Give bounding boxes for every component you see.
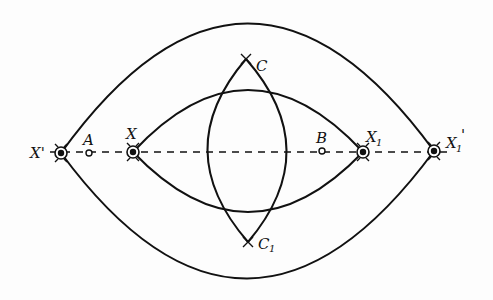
diagram-canvas: X' A X B X 1 X 1 ' C C 1 — [0, 0, 493, 300]
label-c1: C 1 — [258, 235, 275, 254]
label-a: A — [81, 131, 94, 149]
svg-text:': ' — [461, 126, 465, 144]
label-x: X — [125, 125, 138, 143]
label-x-prime: X' — [29, 144, 45, 162]
point-marker-b — [319, 148, 325, 154]
point-marker-c1 — [243, 237, 253, 247]
label-x1: X 1 — [365, 128, 382, 148]
svg-text:1: 1 — [456, 143, 462, 154]
vertical-lens-right-arc — [246, 59, 287, 242]
label-x1-prime: X 1 ' — [445, 126, 465, 154]
point-marker-x1-prime — [428, 142, 440, 160]
label-b: B — [315, 129, 327, 147]
outer-lens-bottom-arc — [61, 151, 434, 279]
vertical-lens-left-arc — [207, 59, 248, 242]
svg-text:1: 1 — [269, 243, 275, 254]
point-marker-x-prime — [55, 144, 67, 162]
point-marker-a — [86, 150, 92, 156]
inner-lens-bottom-arc — [133, 152, 363, 212]
point-marker-x — [127, 143, 139, 161]
construction-diagram: X' A X B X 1 X 1 ' C C 1 — [0, 0, 493, 300]
outer-lens-top-arc — [61, 23, 434, 153]
label-c: C — [256, 57, 268, 75]
point-marker-c — [241, 54, 251, 64]
svg-text:1: 1 — [376, 137, 382, 148]
inner-lens-top-arc — [133, 90, 363, 152]
